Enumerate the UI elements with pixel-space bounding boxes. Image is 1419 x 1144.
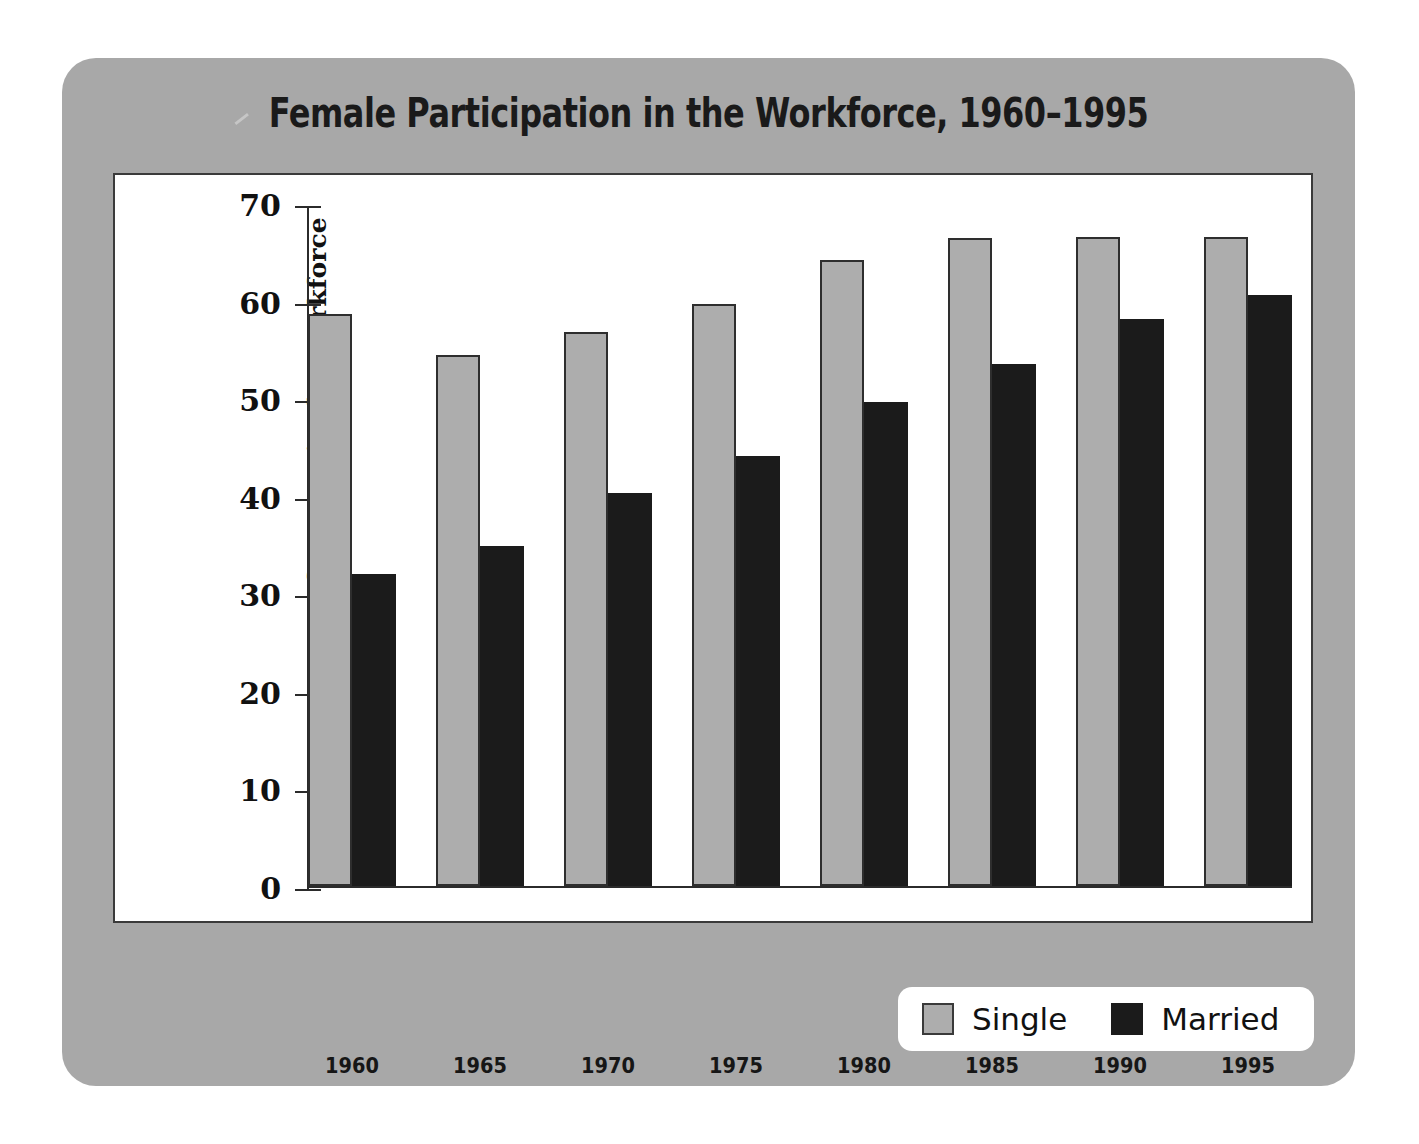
x-tick-label-1980: 1980 — [811, 1053, 917, 1078]
bar-married-1995[interactable] — [1248, 295, 1292, 886]
x-tick-label-1975: 1975 — [683, 1053, 789, 1078]
bar-married-1985[interactable] — [992, 364, 1036, 886]
x-tick-label-1970: 1970 — [555, 1053, 661, 1078]
bar-single-1985[interactable] — [948, 238, 992, 886]
bar-married-1975[interactable] — [736, 456, 780, 886]
bar-married-1965[interactable] — [480, 546, 524, 886]
legend-label-single: Single — [972, 1001, 1067, 1037]
x-tick-label-1985: 1985 — [939, 1053, 1045, 1078]
bar-single-1990[interactable] — [1076, 237, 1120, 886]
plot-panel: Percentage of Women in the Workforce 010… — [113, 173, 1313, 923]
bar-single-1960[interactable] — [308, 314, 352, 886]
bar-single-1980[interactable] — [820, 260, 864, 886]
legend-entry-single[interactable]: Single — [922, 1001, 1067, 1037]
bar-single-1995[interactable] — [1204, 237, 1248, 886]
chart-title: Female Participation in the Workforce, 1… — [191, 90, 1225, 136]
bar-single-1965[interactable] — [436, 355, 480, 886]
x-tick-label-1960: 1960 — [299, 1053, 405, 1078]
legend: Single Married — [898, 987, 1314, 1051]
x-axis-line — [307, 886, 1292, 888]
legend-swatch-single-icon — [922, 1003, 954, 1035]
bar-single-1970[interactable] — [564, 332, 608, 886]
x-tick-label-1990: 1990 — [1067, 1053, 1173, 1078]
figure-card: Female Participation in the Workforce, 1… — [62, 58, 1355, 1086]
legend-entry-married[interactable]: Married — [1111, 1001, 1279, 1037]
x-tick-label-1995: 1995 — [1195, 1053, 1301, 1078]
x-tick-label-1965: 1965 — [427, 1053, 533, 1078]
legend-swatch-married-icon — [1111, 1003, 1143, 1035]
bar-married-1990[interactable] — [1120, 319, 1164, 886]
bars-layer — [115, 175, 1311, 921]
bar-married-1970[interactable] — [608, 493, 652, 886]
bar-married-1980[interactable] — [864, 402, 908, 886]
legend-label-married: Married — [1161, 1001, 1279, 1037]
bar-single-1975[interactable] — [692, 304, 736, 887]
bar-married-1960[interactable] — [352, 574, 396, 886]
